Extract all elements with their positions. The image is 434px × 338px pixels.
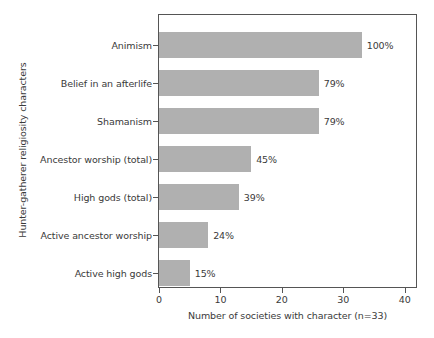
x-axis-tick-label-20: 20	[262, 294, 302, 306]
x-axis-tick-10	[220, 288, 221, 293]
bar-value-active-ancestor-worship: 24%	[213, 230, 234, 241]
bar-animism	[159, 32, 362, 58]
bar-value-high-gods-total: 39%	[244, 192, 265, 203]
x-axis-tick-label-40: 40	[385, 294, 425, 306]
bar-value-belief-in-an-afterlife: 79%	[324, 78, 345, 89]
y-axis-label-belief-in-an-afterlife: Belief in an afterlife	[18, 78, 152, 89]
bar-chart: Hunter-gatherer religiosity characters A…	[0, 0, 434, 338]
bar-value-shamanism: 79%	[324, 116, 345, 127]
bar-active-ancestor-worship	[159, 222, 208, 248]
bar-belief-in-an-afterlife	[159, 70, 319, 96]
bar-value-animism: 100%	[367, 40, 394, 51]
bars-layer	[159, 15, 417, 288]
y-axis-label-ancestor-worship-total: Ancestor worship (total)	[18, 154, 152, 165]
x-axis-tick-label-10: 10	[200, 294, 240, 306]
x-axis-title: Number of societies with character (n=33…	[158, 310, 417, 321]
bar-value-active-high-gods: 15%	[195, 268, 216, 279]
bar-value-ancestor-worship-total: 45%	[256, 154, 277, 165]
x-axis-tick-label-0: 0	[139, 294, 179, 306]
x-axis-tick-20	[282, 288, 283, 293]
x-axis-tick-0	[159, 288, 160, 293]
y-axis-label-active-high-gods: Active high gods	[18, 268, 152, 279]
y-axis-category-labels: Animism Belief in an afterlife Shamanism…	[18, 14, 152, 288]
bar-ancestor-worship-total	[159, 146, 251, 172]
x-axis-tick-40	[405, 288, 406, 293]
y-axis-label-high-gods-total: High gods (total)	[18, 192, 152, 203]
x-axis-tick-30	[343, 288, 344, 293]
bar-active-high-gods	[159, 260, 190, 286]
y-axis-label-animism: Animism	[18, 40, 152, 51]
y-axis-label-shamanism: Shamanism	[18, 116, 152, 127]
bar-shamanism	[159, 108, 319, 134]
y-axis-label-active-ancestor-worship: Active ancestor worship	[18, 230, 152, 241]
x-axis-tick-label-30: 30	[323, 294, 363, 306]
bar-high-gods-total	[159, 184, 239, 210]
